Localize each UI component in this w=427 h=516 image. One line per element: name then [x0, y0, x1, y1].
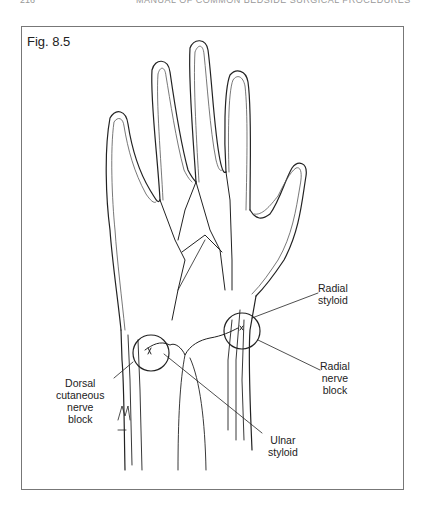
thumb-outline	[250, 163, 306, 296]
leader-radial-styloid	[252, 293, 318, 318]
label-ulnar-styloid: Ulnar styloid	[268, 434, 298, 458]
label-radial-nerve-block: Radial nerve block	[320, 360, 350, 396]
label-radial-styloid: Radial styloid	[318, 282, 348, 306]
forearm-ulnar-edge	[121, 330, 125, 470]
leader-radial-nerve-block	[258, 340, 320, 370]
radial-nerve-block-circle	[224, 313, 260, 349]
hand-illustration	[0, 0, 427, 516]
label-dorsal-cutaneous-nerve-block: Dorsal cutaneous nerve block	[56, 377, 104, 425]
